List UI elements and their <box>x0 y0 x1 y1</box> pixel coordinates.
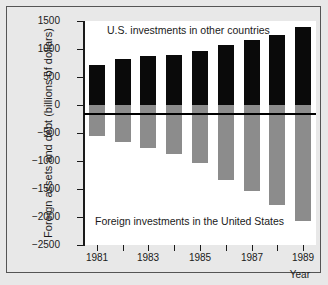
x-tick-label-1989: 1989 <box>292 253 314 263</box>
x-tick-label-1981: 1981 <box>86 253 108 263</box>
bar-foreign-investments-1983 <box>140 105 156 148</box>
x-tick-mark <box>226 245 227 251</box>
y-tick-mark <box>77 49 85 50</box>
x-tick-mark <box>277 245 278 251</box>
bar-us-investments-1986 <box>218 45 234 105</box>
x-tick-mark <box>252 245 253 251</box>
bar-foreign-investments-1981 <box>89 105 105 136</box>
x-tick-label-1983: 1983 <box>137 253 159 263</box>
figure-frame: 150010005000−500−1000−1500−2000−2500 198… <box>6 6 321 273</box>
bar-us-investments-1982 <box>115 59 131 105</box>
x-tick-mark <box>123 245 124 251</box>
bar-foreign-investments-1989 <box>295 105 311 221</box>
bar-us-investments-1985 <box>192 51 208 105</box>
bar-foreign-investments-1982 <box>115 105 131 142</box>
bar-us-investments-1989 <box>295 27 311 105</box>
y-tick-mark <box>77 245 85 246</box>
y-tick-mark <box>77 217 85 218</box>
x-tick-mark <box>303 245 304 251</box>
bar-foreign-investments-1987 <box>244 105 260 191</box>
bar-us-investments-1981 <box>89 65 105 105</box>
y-tick-mark <box>77 189 85 190</box>
y-tick-mark <box>77 161 85 162</box>
x-tick-label-1987: 1987 <box>241 253 263 263</box>
bar-us-investments-1987 <box>244 40 260 105</box>
y-tick-mark <box>77 21 85 22</box>
chart-figure: 150010005000−500−1000−1500−2000−2500 198… <box>0 0 328 285</box>
x-tick-label-1985: 1985 <box>189 253 211 263</box>
y-axis-title: Foreign assets and debt (billions of dol… <box>42 18 54 248</box>
x-tick-mark <box>174 245 175 251</box>
bar-foreign-investments-1986 <box>218 105 234 180</box>
x-tick-mark <box>200 245 201 251</box>
bar-foreign-investments-1988 <box>269 105 285 205</box>
x-tick-mark <box>97 245 98 251</box>
top-annotation: U.S. investments in other countries <box>107 24 270 36</box>
y-tick-mark <box>77 133 85 134</box>
bar-us-investments-1984 <box>166 55 182 105</box>
zero-baseline <box>84 113 316 115</box>
bottom-annotation: Foreign investments in the United States <box>95 215 284 227</box>
bar-us-investments-1983 <box>140 56 156 105</box>
bar-us-investments-1988 <box>269 35 285 105</box>
y-tick-mark <box>77 77 85 78</box>
x-axis-title: Year <box>290 269 310 280</box>
y-tick-mark <box>77 105 85 106</box>
x-tick-mark <box>148 245 149 251</box>
